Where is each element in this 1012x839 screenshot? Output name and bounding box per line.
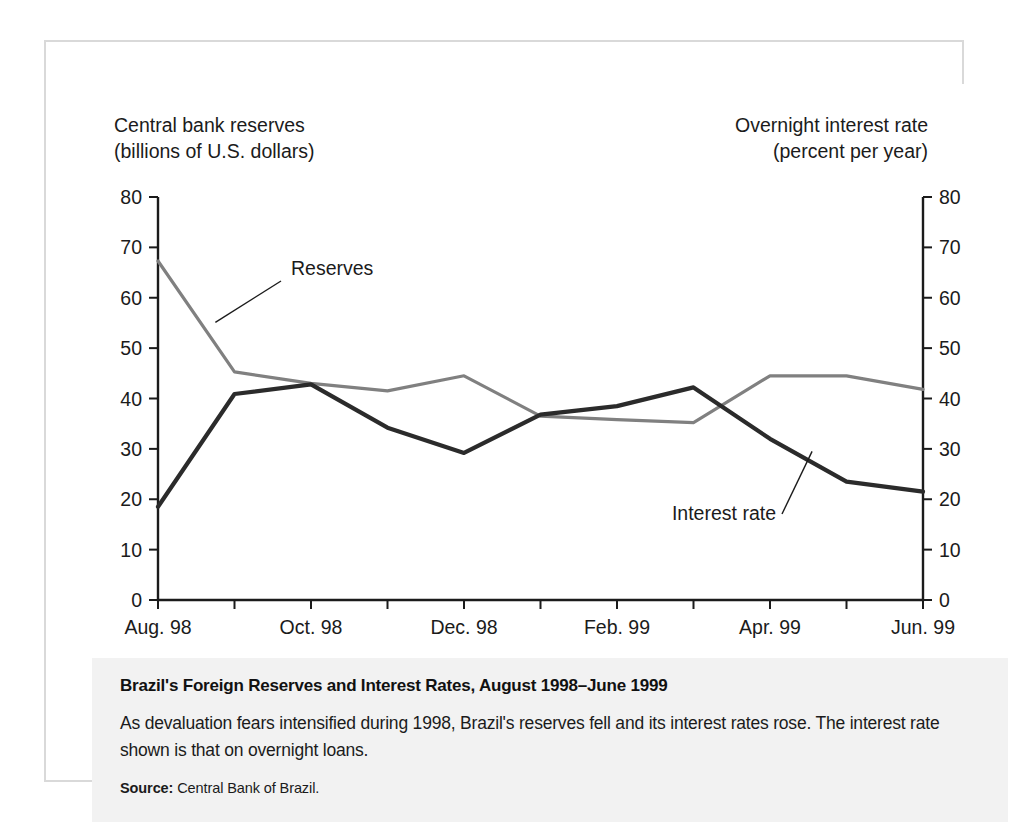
x-tick-label: Oct. 98	[280, 616, 343, 638]
y-tick-label-left: 80	[120, 186, 142, 208]
y-tick-label-left: 20	[120, 488, 142, 510]
source-text: Central Bank of Brazil.	[177, 780, 319, 796]
x-tick-label: Aug. 98	[124, 616, 191, 638]
y-tick-label-left: 0	[131, 589, 142, 611]
line-chart: 01020304050607080 01020304050607080 Aug.…	[46, 42, 1012, 662]
y-tick-label-right: 70	[939, 236, 961, 258]
figure-caption-title: Brazil's Foreign Reserves and Interest R…	[120, 676, 980, 696]
y-tick-label-left: 30	[120, 438, 142, 460]
y-tick-label-left: 10	[120, 539, 142, 561]
reserves-series-label: Reserves	[291, 257, 374, 279]
y-tick-label-right: 10	[939, 539, 961, 561]
y-tick-label-right: 80	[939, 186, 961, 208]
series-line-reserves	[158, 261, 923, 423]
y-tick-label-right: 60	[939, 287, 961, 309]
figure-caption-body: As devaluation fears intensified during …	[120, 710, 950, 764]
source-label: Source:	[120, 780, 173, 796]
y-tick-label-right: 30	[939, 438, 961, 460]
x-tick-label: Jun. 99	[891, 616, 955, 638]
plot-axes	[158, 197, 923, 600]
data-series-group	[158, 261, 923, 507]
x-axis-tick-labels: Aug. 98Oct. 98Dec. 98Feb. 99Apr. 99Jun. …	[124, 616, 955, 638]
interest-rate-leader-line	[782, 451, 812, 514]
y-tick-label-right: 50	[939, 337, 961, 359]
y-tick-label-right: 0	[939, 589, 950, 611]
y-tick-label-right: 40	[939, 388, 961, 410]
y-axis-tick-labels-right: 01020304050607080	[939, 186, 961, 611]
y-tick-label-left: 50	[120, 337, 142, 359]
figure-source: Source: Central Bank of Brazil.	[120, 780, 980, 796]
ticks-group	[149, 197, 932, 609]
x-tick-label: Apr. 99	[739, 616, 801, 638]
y-tick-label-right: 20	[939, 488, 961, 510]
y-tick-label-left: 40	[120, 388, 142, 410]
caption-panel: Brazil's Foreign Reserves and Interest R…	[92, 658, 1008, 822]
figure-frame: Central bank reserves (billions of U.S. …	[44, 40, 964, 782]
x-tick-label: Feb. 99	[584, 616, 650, 638]
reserves-leader-line	[215, 281, 281, 322]
y-axis-tick-labels-left: 01020304050607080	[120, 186, 142, 611]
series-line-interest-rate	[158, 384, 923, 506]
y-tick-label-left: 70	[120, 236, 142, 258]
series-annotations: ReservesInterest rate	[215, 257, 812, 524]
interest-rate-series-label: Interest rate	[672, 502, 776, 524]
x-tick-label: Dec. 98	[430, 616, 497, 638]
axes-group	[158, 197, 923, 600]
y-tick-label-left: 60	[120, 287, 142, 309]
